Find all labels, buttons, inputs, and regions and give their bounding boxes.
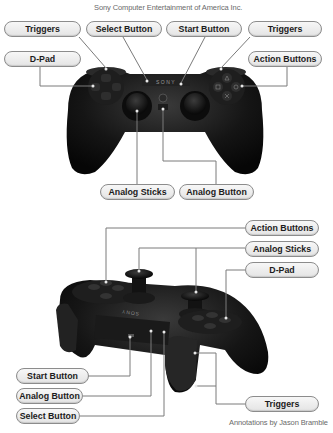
label-triggers-left: Triggers: [4, 21, 81, 37]
label-dpad: D-Pad: [4, 51, 81, 67]
top-controller: SONY: [67, 67, 264, 174]
label-triggers-side: Triggers: [245, 396, 319, 412]
label-analog-sticks: Analog Sticks: [100, 184, 175, 200]
label-start-button-side: Start Button: [16, 368, 89, 384]
label-start-button: Start Button: [166, 21, 242, 37]
label-select-button-side: Select Button: [16, 408, 80, 424]
label-analog-button: Analog Button: [179, 184, 254, 200]
svg-text:SONY: SONY: [156, 79, 176, 85]
label-dpad-side: D-Pad: [245, 262, 319, 278]
label-action-buttons-side: Action Buttons: [245, 220, 319, 236]
label-select-button: Select Button: [86, 21, 162, 37]
annotation-credit: Annotations by Jason Bramble: [229, 418, 328, 427]
label-action-buttons: Action Buttons: [248, 51, 322, 67]
label-triggers-right: Triggers: [248, 21, 322, 37]
label-analog-button-side: Analog Button: [16, 388, 83, 404]
label-analog-sticks-side: Analog Sticks: [245, 241, 319, 257]
